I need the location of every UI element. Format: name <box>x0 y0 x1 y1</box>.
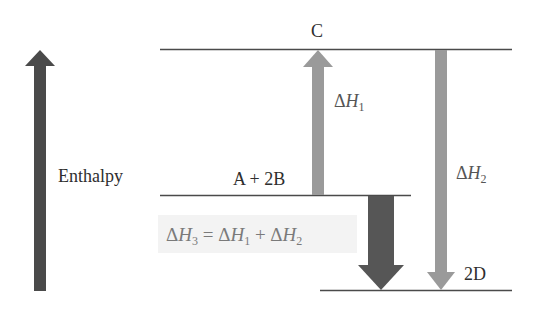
delta-h1-label: ΔH1 <box>334 92 365 113</box>
enthalpy-axis-arrow <box>25 50 55 291</box>
axis-label-enthalpy: Enthalpy <box>58 167 123 185</box>
delta-h3-arrow <box>358 196 404 290</box>
level-label-c: C <box>311 22 323 40</box>
level-label-products: 2D <box>464 265 486 283</box>
diagram-canvas <box>0 0 536 312</box>
level-label-reactants: A + 2B <box>233 170 285 188</box>
delta-h2-label: ΔH2 <box>456 164 487 185</box>
delta-h2-arrow <box>427 50 455 290</box>
hess-law-equation: ΔH3 = ΔH1 + ΔH2 <box>166 225 302 247</box>
delta-h1-arrow <box>303 50 333 195</box>
